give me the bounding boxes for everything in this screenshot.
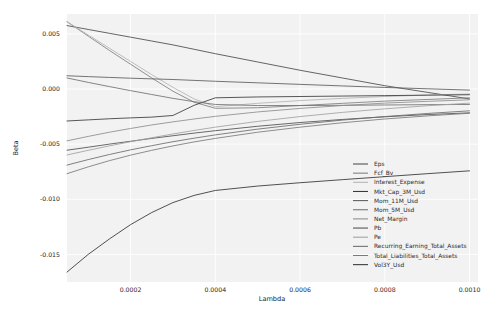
x-tick-label: 0.0004 bbox=[204, 286, 226, 293]
x-tick-label: 0.0008 bbox=[374, 286, 396, 293]
x-tick-label: 0.0006 bbox=[289, 286, 311, 293]
y-tick-label: -0.005 bbox=[40, 140, 60, 147]
legend-label: Pe bbox=[374, 234, 381, 240]
x-axis-title: Lambda bbox=[259, 295, 286, 303]
legend-label: Total_Liabilities_Total_Assets bbox=[373, 253, 457, 260]
line-chart: 0.00020.00040.00060.00080.0010 0.0050.00… bbox=[0, 0, 497, 320]
y-tick-label: 0.005 bbox=[42, 30, 60, 37]
legend-label: Recurring_Earning_Total_Assets bbox=[374, 243, 467, 250]
x-tick-label: 0.0002 bbox=[120, 286, 142, 293]
legend-label: Pb bbox=[374, 225, 382, 231]
legend-label: Net_Margin bbox=[374, 216, 408, 223]
legend-label: Fcf_Bv bbox=[374, 170, 394, 177]
legend-label: Mom_11M_Usd bbox=[374, 198, 418, 205]
legend-label: Eps bbox=[374, 161, 385, 168]
legend-label: Mkt_Cap_3M_Usd bbox=[374, 189, 425, 196]
legend-label: Mom_5M_Usd bbox=[374, 207, 415, 214]
y-tick-label: 0.000 bbox=[42, 85, 60, 92]
plot-area-background bbox=[67, 14, 478, 282]
y-tick-label: -0.015 bbox=[40, 251, 60, 258]
y-axis-title: Beta bbox=[12, 140, 20, 155]
legend-label: Interest_Expense bbox=[374, 179, 425, 186]
figure-canvas: 0.00020.00040.00060.00080.0010 0.0050.00… bbox=[0, 0, 497, 320]
y-tick-label: -0.010 bbox=[40, 195, 60, 202]
legend-label: Vol3Y_Usd bbox=[374, 262, 404, 269]
x-tick-label: 0.0010 bbox=[459, 286, 481, 293]
